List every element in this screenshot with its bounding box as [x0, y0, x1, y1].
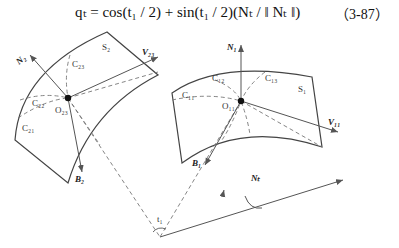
label-n2: N₂	[13, 53, 28, 68]
label-c23a: C₂₃	[72, 59, 84, 69]
label-b1: B₁	[191, 158, 201, 168]
label-c13: C₁₃	[265, 73, 277, 83]
label-c11: C₁₁	[182, 90, 194, 100]
label-t1: t₁	[157, 214, 163, 224]
label-b2: B₂	[74, 174, 84, 184]
label-c22: C₂₂	[32, 98, 44, 108]
diagram: N₂ V₂₃ S₂ C₂₃ C₂₂ C₂₁ O₂₃ B₂ N₁ C₁₁ C₁₂ …	[0, 0, 399, 248]
label-v11: V₁₁	[328, 117, 340, 127]
label-s1: S₁	[298, 84, 306, 94]
nt-axis	[160, 180, 343, 237]
point-o11	[238, 98, 244, 104]
label-nt: Nₜ	[250, 173, 261, 183]
label-c12: C₁₂	[212, 73, 224, 83]
label-v23: V₂₃	[142, 47, 154, 57]
point-o23	[65, 95, 71, 101]
label-o11: O₁₁	[222, 101, 235, 111]
label-c21: C₂₁	[22, 123, 34, 133]
label-s2: S₂	[102, 42, 110, 52]
label-o23: O₂₃	[55, 105, 68, 115]
label-n1: N₁	[226, 42, 237, 52]
